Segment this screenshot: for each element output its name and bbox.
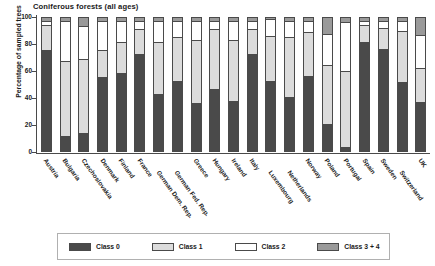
bar-column (355, 17, 374, 152)
bar-segment-c2 (341, 23, 350, 72)
x-label-cell: Portugal (337, 155, 356, 217)
bar-segment-c2 (173, 22, 182, 39)
stacked-bar[interactable] (172, 17, 183, 152)
stacked-bar[interactable] (415, 17, 426, 152)
legend-item[interactable]: Class 2 (224, 243, 307, 251)
stacked-bar[interactable] (78, 17, 89, 152)
legend-item[interactable]: Class 3 + 4 (306, 243, 389, 251)
bar-segment-c2 (61, 22, 70, 62)
x-label-cell: France (131, 155, 150, 217)
x-label-cell: Austria (37, 155, 56, 217)
stacked-bar[interactable] (397, 17, 408, 152)
legend-label: Class 3 + 4 (344, 243, 379, 250)
stacked-bar[interactable] (191, 17, 202, 152)
y-axis-title: Percentage of sampled trees (15, 0, 22, 117)
chart-title: Coniferous forests (all ages) (33, 2, 138, 11)
bar-segment-c2 (154, 22, 163, 44)
legend-label: Class 1 (179, 243, 203, 250)
bar-segment-c1 (79, 60, 88, 134)
bar-segment-c3 (79, 18, 88, 27)
bar-column (337, 17, 356, 152)
bar-segment-c0 (135, 55, 144, 151)
x-label-cell: Finland (112, 155, 131, 217)
stacked-bar[interactable] (116, 17, 127, 152)
bar-segment-c0 (304, 77, 313, 151)
stacked-bar[interactable] (247, 17, 258, 152)
legend-item[interactable]: Class 1 (141, 243, 224, 251)
stacked-bar[interactable] (153, 17, 164, 152)
bar-column (280, 17, 299, 152)
bar-column (374, 17, 393, 152)
x-label-cell: Switzerland (393, 155, 412, 217)
bar-segment-c1 (98, 51, 107, 78)
legend-item[interactable]: Class 0 (58, 243, 141, 251)
x-label-cell: Spain (355, 155, 374, 217)
stacked-bar[interactable] (41, 17, 52, 152)
stacked-bar[interactable] (322, 17, 333, 152)
x-label-cell: Netherlands (280, 155, 299, 217)
x-axis-labels: AustriaBulgariaCzechoslovakiaDenmarkFinl… (37, 155, 430, 217)
bar-segment-c1 (416, 69, 425, 103)
bar-column (299, 17, 318, 152)
stacked-bar[interactable] (60, 17, 71, 152)
x-label-cell: Greece (187, 155, 206, 217)
x-axis-label: UK (417, 157, 428, 169)
x-label-cell: Norway (299, 155, 318, 217)
bar-segment-c1 (135, 30, 144, 54)
stacked-bar[interactable] (134, 17, 145, 152)
bar-segment-c2 (229, 22, 238, 41)
bar-segment-c0 (210, 90, 219, 151)
x-label-cell: Italy (243, 155, 262, 217)
x-label-cell: Denmark (93, 155, 112, 217)
stacked-bar[interactable] (378, 17, 389, 152)
stacked-bar[interactable] (284, 17, 295, 152)
bar-column (168, 17, 187, 152)
bar-segment-c1 (379, 29, 388, 50)
stacked-bar[interactable] (228, 17, 239, 152)
bar-segment-c1 (61, 62, 70, 137)
x-label-cell: UK (411, 155, 430, 217)
bar-segment-c2 (285, 22, 294, 39)
x-label-cell: Poland (318, 155, 337, 217)
legend-label: Class 0 (96, 243, 120, 250)
x-label-cell: Luxembourg (262, 155, 281, 217)
stacked-bar[interactable] (359, 17, 370, 152)
bar-segment-c1 (173, 38, 182, 82)
chart-container: Coniferous forests (all ages) 1008060402… (0, 0, 435, 266)
bar-column (37, 17, 56, 152)
legend-label: Class 2 (262, 243, 286, 250)
bar-segment-c2 (416, 36, 425, 70)
bar-segment-c1 (192, 41, 201, 104)
bar-segment-c1 (360, 26, 369, 43)
bar-column (393, 17, 412, 152)
bar-column (149, 17, 168, 152)
bar-segment-c2 (117, 22, 126, 44)
stacked-bar[interactable] (303, 17, 314, 152)
bar-segment-c1 (285, 38, 294, 98)
bar-segment-c0 (117, 74, 126, 151)
stacked-bar[interactable] (209, 17, 220, 152)
x-label-cell: German Fed. Rep. (168, 155, 187, 217)
bar-column (187, 17, 206, 152)
bar-segment-c3 (416, 18, 425, 36)
bar-column (131, 17, 150, 152)
bar-segment-c2 (98, 22, 107, 52)
bar-segment-c0 (379, 50, 388, 151)
bar-column (224, 17, 243, 152)
x-label-cell: Bulgaria (56, 155, 75, 217)
y-tick-label: 20 (2, 122, 32, 129)
bar-segment-c1 (398, 32, 407, 84)
bar-segment-c1 (229, 41, 238, 102)
x-axis-label: Italy (249, 157, 262, 171)
bar-column (243, 17, 262, 152)
bar-segment-c2 (266, 20, 275, 37)
stacked-bar[interactable] (97, 17, 108, 152)
bar-segment-c0 (229, 102, 238, 151)
class-1-swatch (152, 243, 174, 251)
bar-column (74, 17, 93, 152)
stacked-bar[interactable] (265, 17, 276, 152)
bar-segment-c1 (304, 33, 313, 77)
bar-segment-c1 (42, 26, 51, 50)
bar-segment-c0 (61, 137, 70, 151)
stacked-bar[interactable] (340, 17, 351, 152)
